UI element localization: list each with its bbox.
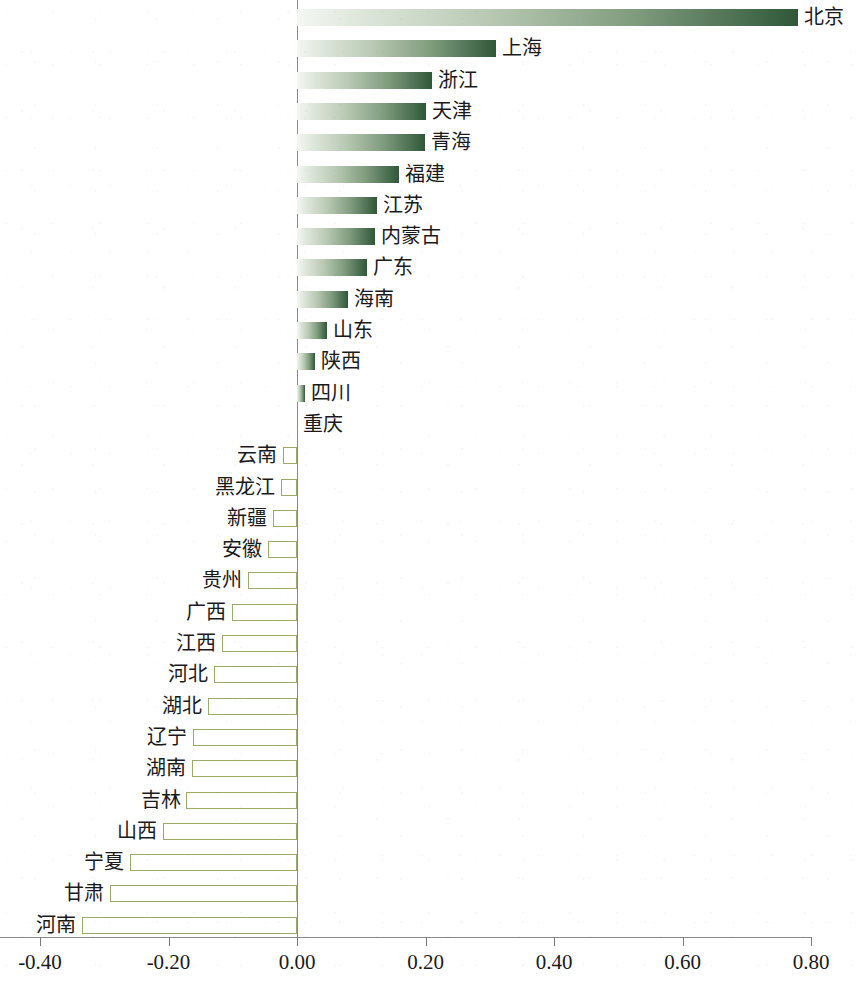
bar-category-label: 黑龙江 (215, 475, 275, 499)
bar-row: 广西 (0, 597, 864, 628)
bar-category-label: 重庆 (303, 412, 343, 436)
bar-row: 内蒙古 (0, 221, 864, 252)
bar-row: 甘肃 (0, 878, 864, 909)
bar-row: 辽宁 (0, 722, 864, 753)
bar-row: 四川 (0, 378, 864, 409)
x-axis-tick (297, 937, 298, 946)
x-axis-tick-label: 0.00 (247, 950, 347, 975)
bar-positive (297, 322, 327, 339)
bar-positive (297, 197, 377, 214)
bar-row: 重庆 (0, 409, 864, 440)
bar-negative (193, 729, 297, 746)
x-axis-tick-label: 0.60 (633, 950, 733, 975)
bar-positive (297, 103, 426, 120)
bar-row: 河北 (0, 659, 864, 690)
bar-category-label: 青海 (431, 130, 471, 154)
bar-row: 黑龙江 (0, 472, 864, 503)
bar-category-label: 安徽 (222, 537, 262, 561)
bar-positive (297, 259, 367, 276)
bar-category-label: 陕西 (321, 349, 361, 373)
x-axis-tick-label: -0.20 (119, 950, 219, 975)
bar-category-label: 福建 (405, 162, 445, 186)
bar-negative (281, 479, 297, 496)
bar-category-label: 贵州 (202, 568, 242, 592)
bar-category-label: 内蒙古 (381, 224, 441, 248)
bar-negative (130, 854, 297, 871)
bar-negative (222, 635, 297, 652)
x-axis-tick (40, 937, 41, 946)
bar-positive (297, 291, 348, 308)
x-axis-tick-label: -0.40 (0, 950, 90, 975)
bar-negative (163, 823, 297, 840)
x-axis-tick (169, 937, 170, 946)
bar-category-label: 云南 (237, 443, 277, 467)
bar-row: 吉林 (0, 785, 864, 816)
bar-positive (297, 385, 305, 402)
bar-category-label: 江西 (176, 631, 216, 655)
bar-category-label: 江苏 (383, 193, 423, 217)
bar-negative (273, 510, 297, 527)
bar-row: 新疆 (0, 503, 864, 534)
bar-row: 山西 (0, 816, 864, 847)
bar-row: 江苏 (0, 190, 864, 221)
horizontal-bar-chart: 北京上海浙江天津青海福建江苏内蒙古广东海南山东陕西四川重庆云南黑龙江新疆安徽贵州… (0, 0, 864, 985)
bar-row: 山东 (0, 315, 864, 346)
bar-negative (82, 917, 297, 934)
bar-row: 上海 (0, 33, 864, 64)
bar-category-label: 天津 (432, 99, 472, 123)
x-axis-tick (811, 937, 812, 946)
x-axis-tick (554, 937, 555, 946)
bar-row: 云南 (0, 440, 864, 471)
bar-negative (208, 698, 297, 715)
bar-positive (297, 9, 798, 26)
bar-category-label: 北京 (804, 5, 844, 29)
bar-positive (297, 228, 375, 245)
bar-category-label: 广东 (373, 255, 413, 279)
bar-category-label: 山西 (117, 819, 157, 843)
bar-category-label: 河南 (36, 913, 76, 937)
bar-category-label: 广西 (186, 600, 226, 624)
bar-category-label: 山东 (333, 318, 373, 342)
bar-row: 广东 (0, 252, 864, 283)
x-axis-tick (683, 937, 684, 946)
bar-category-label: 四川 (311, 381, 351, 405)
bar-category-label: 吉林 (141, 788, 181, 812)
bar-negative (248, 572, 297, 589)
bar-positive (297, 134, 425, 151)
bar-row: 青海 (0, 127, 864, 158)
bar-category-label: 宁夏 (84, 850, 124, 874)
bar-row: 北京 (0, 2, 864, 33)
x-axis-tick-label: 0.80 (761, 950, 861, 975)
bar-category-label: 辽宁 (147, 725, 187, 749)
bar-negative (268, 541, 297, 558)
bar-row: 宁夏 (0, 847, 864, 878)
bar-category-label: 湖南 (146, 756, 186, 780)
bar-positive (297, 166, 399, 183)
bar-row: 湖南 (0, 753, 864, 784)
bar-row: 贵州 (0, 565, 864, 596)
bar-category-label: 新疆 (227, 506, 267, 530)
bar-category-label: 浙江 (438, 68, 478, 92)
bar-row: 江西 (0, 628, 864, 659)
bar-row: 陕西 (0, 346, 864, 377)
bar-category-label: 河北 (168, 662, 208, 686)
x-axis-line (0, 937, 812, 938)
bar-positive (297, 40, 496, 57)
bar-category-label: 海南 (354, 287, 394, 311)
bar-row: 湖北 (0, 691, 864, 722)
bar-category-label: 湖北 (162, 694, 202, 718)
bar-negative (283, 447, 297, 464)
bar-positive (297, 72, 432, 89)
bar-negative (110, 885, 297, 902)
x-axis-tick-label: 0.20 (376, 950, 476, 975)
x-axis-tick-label: 0.40 (504, 950, 604, 975)
bar-category-label: 上海 (502, 36, 542, 60)
bar-row: 福建 (0, 159, 864, 190)
bar-row: 海南 (0, 284, 864, 315)
bar-negative (232, 604, 297, 621)
bar-positive (297, 353, 315, 370)
bar-row: 浙江 (0, 65, 864, 96)
x-axis-tick (426, 937, 427, 946)
bar-row: 安徽 (0, 534, 864, 565)
bar-row: 天津 (0, 96, 864, 127)
